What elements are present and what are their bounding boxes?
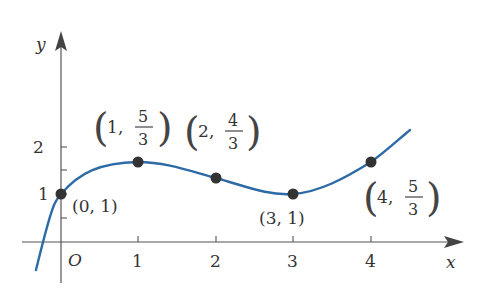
svg-text:): ) <box>246 108 262 154</box>
y-tick-label-2: 2 <box>33 137 44 157</box>
label-point-3-1: (3, 1) <box>259 208 305 228</box>
svg-text:): ) <box>426 174 442 220</box>
x-tick-label-4: 4 <box>365 251 376 271</box>
point-3-1 <box>288 189 299 200</box>
function-graph: y x O 1 2 3 4 1 2 (0, 1) (3, 1) ( 1 , 5 … <box>0 0 482 295</box>
x-tick-label-1: 1 <box>132 251 143 271</box>
label-point-1-5-3: ( 1 , 5 3 ) <box>93 104 173 150</box>
x-tick-label-2: 2 <box>210 251 221 271</box>
svg-text:3: 3 <box>138 130 148 149</box>
svg-text:5: 5 <box>408 177 418 196</box>
y-axis-label: y <box>35 34 46 54</box>
svg-text:,: , <box>118 117 123 137</box>
svg-text:3: 3 <box>228 134 238 153</box>
point-1-5-3 <box>133 157 144 168</box>
origin-label: O <box>68 250 82 270</box>
svg-text:,: , <box>388 187 393 207</box>
svg-text:(3, 1): (3, 1) <box>259 208 305 228</box>
svg-text:2: 2 <box>198 121 209 141</box>
point-4-5-3 <box>366 157 377 168</box>
svg-text:,: , <box>209 121 214 141</box>
point-0-1 <box>56 189 67 200</box>
y-tick-label-1: 1 <box>38 184 49 204</box>
label-point-2-4-3: ( 2 , 4 3 ) <box>184 108 262 154</box>
svg-text:5: 5 <box>138 107 148 126</box>
label-point-4-5-3: ( 4 , 5 3 ) <box>363 174 442 220</box>
svg-text:(0, 1): (0, 1) <box>72 196 118 216</box>
x-tick-label-3: 3 <box>287 251 298 271</box>
svg-text:4: 4 <box>228 111 238 130</box>
svg-text:): ) <box>157 104 173 150</box>
svg-text:3: 3 <box>408 200 418 219</box>
svg-text:4: 4 <box>377 187 388 207</box>
svg-text:1: 1 <box>107 117 118 137</box>
label-point-0-1: (0, 1) <box>72 196 118 216</box>
x-axis-label: x <box>446 252 456 272</box>
point-2-4-3 <box>211 173 222 184</box>
